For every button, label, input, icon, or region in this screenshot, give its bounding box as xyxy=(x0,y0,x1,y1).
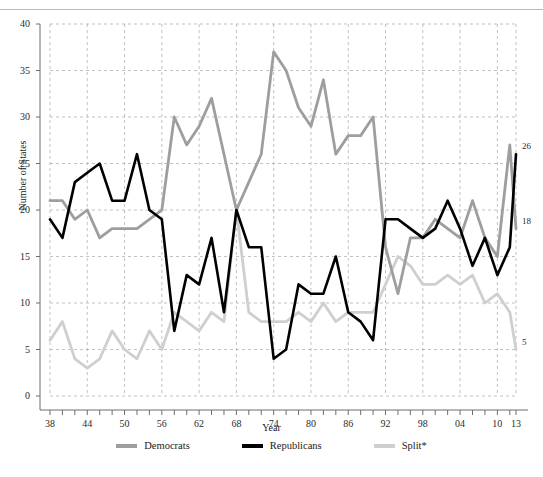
figure-container: Number of States Year 0510152025303540 3… xyxy=(0,0,543,477)
legend-item-democrats[interactable]: Democrats xyxy=(116,440,189,451)
x-tick-label: 92 xyxy=(371,418,401,429)
legend-label: Republicans xyxy=(270,440,322,451)
legend-label: Democrats xyxy=(144,440,189,451)
y-tick-label: 40 xyxy=(4,18,30,29)
y-tick-label: 5 xyxy=(4,344,30,355)
y-tick-label: 25 xyxy=(4,158,30,169)
x-tick-label: 56 xyxy=(147,418,177,429)
line-chart-plot xyxy=(0,0,543,477)
x-tick-label: 86 xyxy=(333,418,363,429)
x-tick-label: 98 xyxy=(408,418,438,429)
y-tick-label: 0 xyxy=(4,390,30,401)
legend-item-split[interactable]: Split* xyxy=(374,440,427,451)
x-tick-label: 38 xyxy=(35,418,65,429)
legend-swatch-icon xyxy=(374,444,395,448)
chart-legend: DemocratsRepublicansSplit* xyxy=(0,440,543,451)
legend-item-republicans[interactable]: Republicans xyxy=(242,440,322,451)
legend-swatch-icon xyxy=(242,444,263,448)
legend-swatch-icon xyxy=(116,444,137,448)
end-label-split: 5 xyxy=(522,337,527,347)
x-tick-label: 80 xyxy=(296,418,326,429)
end-label-democrats: 18 xyxy=(522,216,531,226)
end-label-republicans: 26 xyxy=(522,141,531,151)
y-axis-label: Number of States xyxy=(17,116,28,236)
x-tick-label: 44 xyxy=(72,418,102,429)
x-tick-label: 68 xyxy=(221,418,251,429)
y-tick-label: 20 xyxy=(4,204,30,215)
y-tick-label: 15 xyxy=(4,251,30,262)
x-tick-label: 62 xyxy=(184,418,214,429)
y-tick-label: 30 xyxy=(4,111,30,122)
y-tick-label: 10 xyxy=(4,297,30,308)
x-tick-label: 50 xyxy=(110,418,140,429)
x-tick-label: 13 xyxy=(501,418,531,429)
x-tick-label: 04 xyxy=(445,418,475,429)
x-tick-label: 74 xyxy=(259,418,289,429)
y-tick-label: 35 xyxy=(4,65,30,76)
legend-label: Split* xyxy=(402,440,427,451)
